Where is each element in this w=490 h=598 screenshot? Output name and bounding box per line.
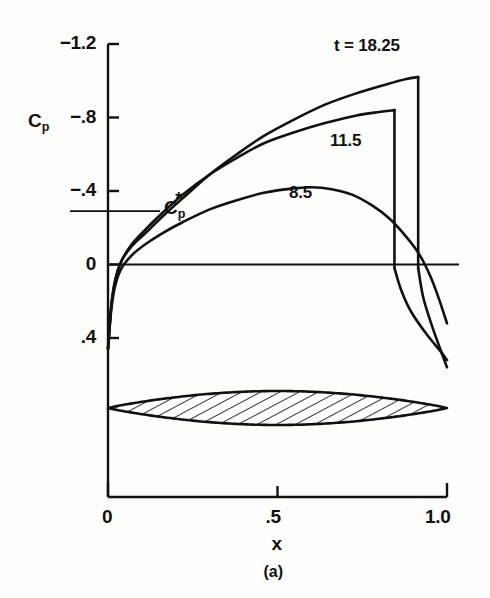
y-tick-label-zero: 0 xyxy=(86,253,96,275)
curve-label-11-5: 11.5 xyxy=(330,131,361,151)
airfoil-hatch-fill xyxy=(108,391,447,425)
y-tick-label-minus-0-4: −.4 xyxy=(70,179,96,201)
pressure-distribution-plot xyxy=(0,0,490,598)
y-axis-title-subscript: p xyxy=(42,120,50,134)
x-tick-label-zero: 0 xyxy=(102,506,112,528)
cp-curves xyxy=(108,77,447,367)
curve-label-8-5: 8.5 xyxy=(289,183,312,203)
cp-star-label: Cp* xyxy=(164,197,185,221)
curve-label-t-18-25: t = 18.25 xyxy=(334,36,400,56)
x-axis-tick-marks xyxy=(108,483,447,497)
x-axis-title: x xyxy=(272,533,283,555)
cp-star-glyph-stack: Cp* xyxy=(164,197,185,221)
y-tick-label-0-4: .4 xyxy=(81,326,96,348)
y-axis-title: Cp xyxy=(28,110,49,134)
y-tick-label-minus-1-2: −1.2 xyxy=(60,32,96,54)
reference-lines xyxy=(70,211,459,264)
cp-star-superscript: * xyxy=(175,189,182,210)
cp-curve-pre-shock xyxy=(108,77,418,349)
y-tick-label-minus-0-8: −.8 xyxy=(70,106,96,128)
figure-container: −1.2 −.8 −.4 0 .4 0 .5 1.0 Cp x Cp* t = … xyxy=(0,0,490,598)
x-tick-label-1-0: 1.0 xyxy=(425,506,451,528)
airfoil-section xyxy=(108,391,447,425)
figure-caption: (a) xyxy=(264,563,284,581)
x-tick-label-0-5: .5 xyxy=(266,506,281,528)
y-axis-title-main: C xyxy=(28,110,42,131)
